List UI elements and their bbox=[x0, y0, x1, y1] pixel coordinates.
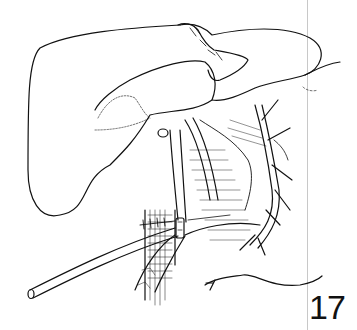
figure-number: 17 bbox=[309, 290, 345, 324]
liver-illustration bbox=[0, 0, 357, 330]
figure-page: 17 bbox=[0, 0, 357, 330]
